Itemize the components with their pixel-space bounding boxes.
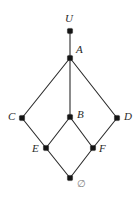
edges-group <box>22 31 117 178</box>
node-label-c: C <box>8 111 15 122</box>
node-b[interactable] <box>67 114 72 119</box>
node-o[interactable] <box>67 175 72 180</box>
node-label-a: A <box>76 44 83 55</box>
node-label-o: ∅ <box>77 178 86 189</box>
node-label-b: B <box>77 109 84 120</box>
node-d[interactable] <box>114 115 119 120</box>
edge-e-o <box>46 148 70 178</box>
node-label-f: F <box>99 143 106 154</box>
node-c[interactable] <box>19 115 24 120</box>
edge-f-o <box>70 148 93 178</box>
edge-b-f <box>70 117 93 148</box>
node-e[interactable] <box>43 145 48 150</box>
hasse-diagram: UACBDEF∅ <box>0 0 139 198</box>
node-label-d: D <box>124 111 132 122</box>
node-f[interactable] <box>90 145 95 150</box>
node-a[interactable] <box>67 55 72 60</box>
lattice-graph <box>0 0 139 198</box>
edge-a-c <box>22 58 70 118</box>
node-label-u: U <box>65 13 73 24</box>
edge-b-e <box>46 117 70 148</box>
node-label-e: E <box>32 143 39 154</box>
node-u[interactable] <box>67 28 72 33</box>
